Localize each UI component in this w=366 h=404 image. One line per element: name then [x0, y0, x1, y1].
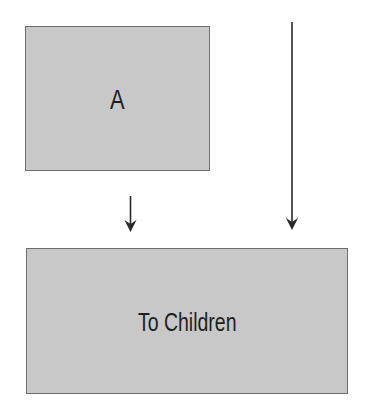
- arrows-layer: [0, 0, 366, 404]
- arrow-long-to-children: [286, 22, 298, 230]
- arrow-a-to-children: [125, 196, 137, 232]
